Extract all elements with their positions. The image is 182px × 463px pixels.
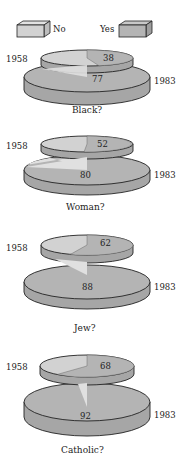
pie-group-jew: 1958 62 88 1983 Jew? bbox=[6, 235, 176, 333]
year-1983-label: 1983 bbox=[154, 410, 176, 420]
year-1958-label: 1958 bbox=[6, 243, 28, 253]
value-1958: 52 bbox=[97, 139, 108, 149]
value-1983: 77 bbox=[92, 74, 103, 84]
question-label: Catholic? bbox=[61, 445, 104, 455]
value-1983: 92 bbox=[80, 411, 91, 421]
year-1958-label: 1958 bbox=[6, 141, 28, 151]
pie-group-black: 1958 38 77 1983 Black? bbox=[6, 50, 176, 115]
pie-group-woman: 1958 52 80 1983 Woman? bbox=[6, 136, 176, 212]
legend-yes-label: Yes bbox=[99, 24, 114, 34]
question-label: Black? bbox=[72, 105, 102, 115]
value-1983: 80 bbox=[80, 170, 91, 180]
year-1983-label: 1983 bbox=[154, 76, 176, 86]
value-1958: 68 bbox=[100, 361, 111, 371]
year-1958-label: 1958 bbox=[6, 54, 28, 64]
question-label: Woman? bbox=[66, 202, 105, 212]
year-1983-label: 1983 bbox=[154, 282, 176, 292]
legend-no-swatch bbox=[17, 21, 50, 37]
value-1983: 88 bbox=[82, 282, 93, 292]
pie-group-catholic: 1958 68 92 1983 Catholic? bbox=[6, 355, 176, 455]
question-label: Jew? bbox=[73, 323, 96, 333]
legend-yes-swatch bbox=[119, 21, 152, 37]
value-1958: 38 bbox=[103, 53, 114, 63]
legend-no-label: No bbox=[53, 24, 66, 34]
year-1958-label: 1958 bbox=[6, 362, 28, 372]
chart-canvas: No Yes 1958 38 77 1983 Black? 1958 52 bbox=[0, 0, 182, 463]
year-1983-label: 1983 bbox=[154, 170, 176, 180]
legend: No Yes bbox=[17, 21, 152, 37]
value-1958: 62 bbox=[100, 238, 111, 248]
